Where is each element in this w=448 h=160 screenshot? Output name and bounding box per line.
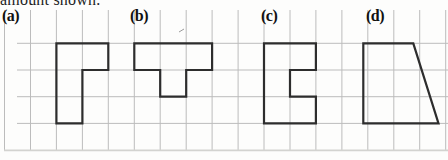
figure-d-outline	[363, 43, 438, 123]
figure-label-d: (d)	[366, 7, 384, 25]
figure-label-a: (a)	[2, 7, 19, 25]
figure-label-b: (b)	[130, 7, 148, 25]
stray-mark-artifact	[179, 29, 184, 32]
textbook-page-fragment: amount shown. (a) (b) (c) (d)	[0, 0, 448, 160]
figure-label-c: (c)	[261, 7, 277, 25]
